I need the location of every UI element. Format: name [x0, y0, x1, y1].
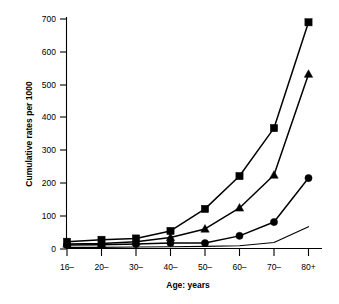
y-tick-label-100: 100 — [42, 211, 56, 221]
y-tick-200: 200 — [42, 178, 67, 188]
y-tick-500: 500 — [42, 80, 67, 90]
data-point-square-70– — [270, 124, 277, 131]
data-point-circle-80+ — [305, 174, 312, 181]
y-tick-label-600: 600 — [42, 47, 56, 57]
x-tick-label-60: 60– — [232, 262, 246, 272]
data-point-triangle-50– — [201, 225, 209, 233]
data-point-square-50– — [201, 205, 208, 212]
y-tick-label-400: 400 — [42, 112, 56, 122]
data-point-square-60– — [236, 172, 243, 179]
series-square-group — [63, 19, 312, 246]
x-tick-20: 20– — [94, 249, 108, 272]
y-axis-title-text: Cumulative rates per 1000 — [24, 81, 34, 187]
data-point-circle-40– — [167, 239, 174, 246]
x-tick-label-20: 20– — [94, 262, 108, 272]
chart-figure: Cumulative rates per 1000 700 600 500 40… — [0, 0, 339, 304]
y-tick-label-0: 0 — [51, 244, 56, 254]
y-tick-label-300: 300 — [42, 145, 56, 155]
x-tick-label-80: 80+ — [301, 262, 315, 272]
y-tick-400: 400 — [42, 112, 67, 122]
series-line-triangle — [67, 74, 309, 244]
x-tick-80: 80+ — [301, 249, 315, 272]
y-axis-title: Cumulative rates per 1000 — [24, 81, 34, 187]
series-line-circle — [67, 178, 309, 245]
x-axis-ticks: 16– 20– 30– 40– 50– 60– — [60, 249, 316, 272]
x-tick-50: 50– — [198, 249, 212, 272]
series-line-square — [67, 22, 309, 241]
x-tick-40: 40– — [163, 249, 177, 272]
data-point-square-80+ — [305, 19, 312, 26]
x-tick-60: 60– — [232, 249, 246, 272]
x-tick-label-40: 40– — [163, 262, 177, 272]
y-tick-300: 300 — [42, 145, 67, 155]
data-point-circle-70– — [270, 218, 277, 225]
x-tick-label-16: 16– — [60, 262, 74, 272]
x-axis-title-text: Age: years — [166, 280, 210, 290]
line-chart-canvas: Cumulative rates per 1000 700 600 500 40… — [0, 0, 339, 304]
data-point-circle-50– — [201, 239, 208, 246]
x-tick-label-50: 50– — [198, 262, 212, 272]
x-tick-16: 16– — [60, 249, 74, 272]
x-tick-label-70: 70– — [267, 262, 281, 272]
y-axis-ticks: 700 600 500 400 300 200 — [42, 14, 67, 254]
data-point-circle-60– — [236, 232, 243, 239]
data-point-triangle-80+ — [304, 70, 312, 78]
y-tick-label-700: 700 — [42, 14, 56, 24]
y-tick-label-200: 200 — [42, 178, 56, 188]
x-tick-label-30: 30– — [129, 262, 143, 272]
plot-area — [63, 19, 313, 249]
data-point-triangle-70– — [270, 171, 278, 179]
y-tick-600: 600 — [42, 47, 67, 57]
y-tick-700: 700 — [42, 14, 67, 24]
x-tick-30: 30– — [129, 249, 143, 272]
x-tick-70: 70– — [267, 249, 281, 272]
y-tick-label-500: 500 — [42, 80, 56, 90]
y-tick-100: 100 — [42, 211, 67, 221]
